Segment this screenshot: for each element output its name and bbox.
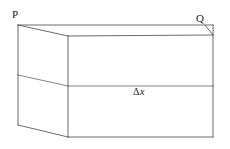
label-corner-p: P — [12, 9, 18, 20]
label-corner-q: Q — [196, 13, 204, 24]
label-delta-x: Δx — [133, 87, 144, 97]
front-face-upper — [68, 35, 213, 86]
figure-container: P Q Δx — [0, 0, 230, 149]
delta-symbol: Δ — [133, 86, 140, 97]
variable-x: x — [140, 86, 144, 97]
